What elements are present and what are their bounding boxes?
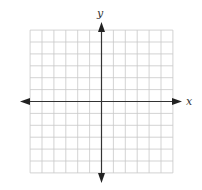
x-axis-label: x [186,95,193,108]
y-axis-top-arrow-icon [98,22,105,32]
coordinate-plane: x y [0,0,202,190]
x-axis-right-arrow-icon [172,98,182,105]
x-axis-left-arrow-icon [20,98,30,105]
y-axis-bottom-arrow-icon [98,173,105,183]
y-axis-label: y [96,7,104,20]
